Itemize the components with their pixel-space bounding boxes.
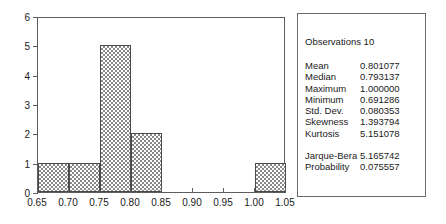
x-axis-tick — [99, 188, 100, 193]
plot-frame — [37, 17, 285, 193]
statistic-label: Probability — [305, 161, 360, 172]
x-axis-tick — [37, 188, 38, 193]
x-axis-tick-label: 0.85 — [144, 197, 178, 209]
x-axis-tick — [192, 188, 193, 193]
histogram-bar — [255, 163, 286, 192]
statistic-value: 5.165742 — [360, 150, 400, 161]
x-axis-tick-label: 0.75 — [82, 197, 116, 209]
statistic-label: Median — [305, 71, 360, 82]
statistic-row: Median0.793137 — [305, 71, 420, 82]
statistic-value: 0.801077 — [360, 60, 400, 71]
statistic-label: Minimum — [305, 94, 360, 105]
x-axis-tick — [254, 188, 255, 193]
statistic-row: Skewness1.393794 — [305, 116, 420, 127]
y-axis-tick: 0 — [33, 193, 38, 194]
histogram-bar — [69, 163, 100, 192]
x-axis-tick-label: 1.05 — [268, 197, 302, 209]
statistic-value: 0.075557 — [360, 161, 400, 172]
histogram-bar — [38, 163, 69, 192]
statistic-label: Kurtosis — [305, 128, 360, 139]
statistic-label: Mean — [305, 60, 360, 71]
y-axis-tick-label: 4 — [24, 70, 30, 83]
statistic-row: Minimum0.691286 — [305, 94, 420, 105]
normality-test-rows: Jarque-Bera5.165742Probability0.075557 — [305, 150, 420, 173]
statistics-separator — [305, 139, 420, 150]
observations-row: Observations 10 — [305, 35, 420, 48]
y-axis-tick: 2 — [33, 134, 38, 135]
plot-area — [38, 18, 284, 192]
x-axis-tick-label: 0.65 — [20, 197, 54, 209]
statistic-row: Jarque-Bera5.165742 — [305, 150, 420, 161]
y-axis-tick: 6 — [33, 17, 38, 18]
x-axis-tick-label: 1.00 — [237, 197, 271, 209]
y-axis-tick-label: 3 — [24, 99, 30, 112]
x-axis-tick — [285, 188, 286, 193]
x-axis-tick-label: 0.95 — [206, 197, 240, 209]
statistics-rows: Mean0.801077Median0.793137Maximum1.00000… — [305, 60, 420, 139]
x-axis-tick-label: 0.70 — [51, 197, 85, 209]
statistic-label: Maximum — [305, 83, 360, 94]
x-axis-tick — [161, 188, 162, 193]
y-axis-tick: 3 — [33, 105, 38, 106]
statistic-label: Jarque-Bera — [305, 150, 360, 161]
y-axis-tick: 1 — [33, 164, 38, 165]
x-axis-tick-label: 0.90 — [175, 197, 209, 209]
x-axis-tick — [68, 188, 69, 193]
x-axis-tick — [223, 188, 224, 193]
statistic-row: Probability0.075557 — [305, 161, 420, 172]
statistic-value: 0.691286 — [360, 94, 400, 105]
statistic-value: 1.393794 — [360, 116, 400, 127]
histogram-statistics-figure: 0123456 0.650.700.750.800.850.900.951.00… — [0, 0, 446, 224]
statistics-list: Observations 10 Mean0.801077Median0.7931… — [305, 35, 420, 173]
histogram-bar — [100, 45, 131, 192]
statistic-label: Std. Dev. — [305, 105, 360, 116]
x-axis-tick — [130, 188, 131, 193]
statistic-value: 0.080353 — [360, 105, 400, 116]
y-axis-tick: 4 — [33, 76, 38, 77]
y-axis-tick: 5 — [33, 46, 38, 47]
x-axis-tick-label: 0.80 — [113, 197, 147, 209]
y-axis-tick-label: 5 — [24, 40, 30, 53]
statistic-label: Skewness — [305, 116, 360, 127]
y-axis-tick-label: 2 — [24, 128, 30, 141]
y-axis-tick-label: 1 — [24, 158, 30, 171]
descriptive-statistics-panel: Observations 10 Mean0.801077Median0.7931… — [297, 13, 426, 197]
y-axis-tick-label: 6 — [24, 11, 30, 24]
statistic-value: 0.793137 — [360, 71, 400, 82]
statistic-row: Mean0.801077 — [305, 60, 420, 71]
statistic-row: Std. Dev.0.080353 — [305, 105, 420, 116]
statistic-row: Kurtosis5.151078 — [305, 128, 420, 139]
histogram-bar — [131, 133, 162, 192]
statistic-value: 1.000000 — [360, 83, 400, 94]
histogram-panel: 0123456 0.650.700.750.800.850.900.951.00… — [0, 0, 292, 224]
statistic-row: Maximum1.000000 — [305, 83, 420, 94]
statistic-value: 5.151078 — [360, 128, 400, 139]
